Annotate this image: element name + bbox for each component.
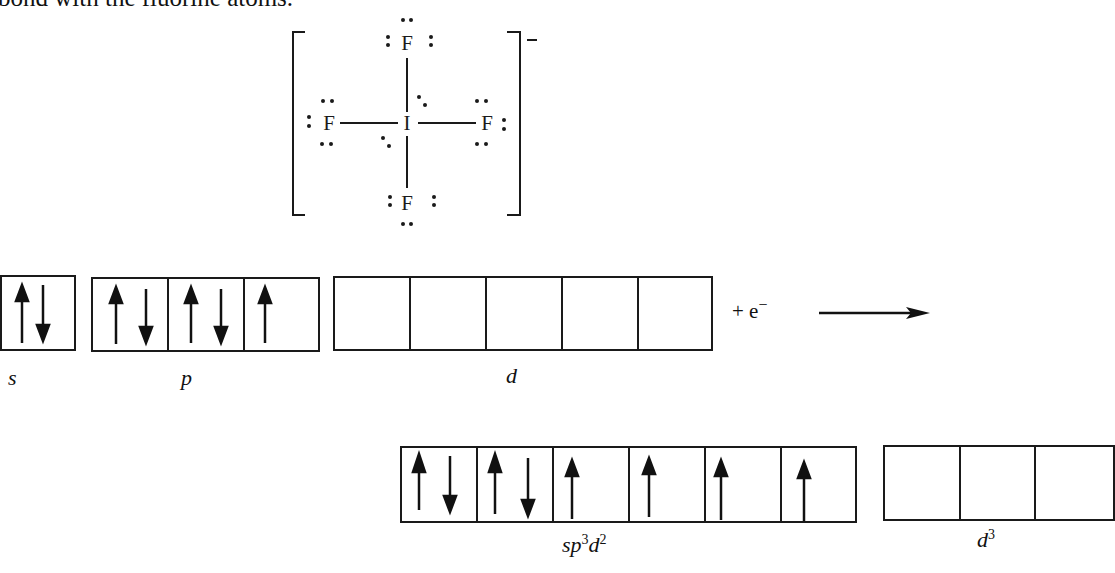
orbital-p	[91, 277, 320, 352]
orbital-cell	[706, 448, 782, 521]
orbital-cell	[402, 448, 478, 521]
lewis-structure-if4-minus: F I F F F	[280, 10, 550, 230]
label-p: p	[181, 365, 192, 391]
left-bracket	[293, 32, 305, 215]
orbital-cell	[782, 448, 855, 521]
orbital-cell	[961, 447, 1036, 519]
orbital-cell	[554, 448, 630, 521]
orbital-cell	[885, 447, 961, 519]
orbital-cell	[1036, 447, 1113, 519]
label-d: d	[506, 363, 517, 389]
right-bracket	[507, 32, 520, 215]
orbital-cell	[563, 278, 639, 349]
orbital-cell	[169, 279, 245, 350]
orbital-cell	[487, 278, 563, 349]
label-s: s	[8, 365, 17, 391]
atom-f-right: F	[481, 111, 493, 135]
added-electron: + e−	[732, 296, 767, 324]
orbital-cell	[478, 448, 554, 521]
orbital-sp3d2	[400, 446, 857, 523]
atom-i-central: I	[404, 111, 411, 135]
atom-f-bottom: F	[401, 191, 413, 215]
orbital-cell	[335, 278, 411, 349]
atom-f-left: F	[323, 111, 335, 135]
orbital-cell	[2, 277, 74, 349]
orbital-cell	[630, 448, 706, 521]
orbital-d	[333, 276, 713, 351]
label-d3: d3	[977, 527, 995, 553]
orbital-cell	[639, 278, 711, 349]
orbital-s	[0, 275, 76, 351]
atom-f-top: F	[401, 31, 413, 55]
reaction-arrow-icon	[818, 303, 933, 323]
orbital-cell	[93, 279, 169, 350]
orbital-cell	[411, 278, 487, 349]
body-text-clipped: bond with the fluorine atoms.	[0, 0, 293, 12]
label-sp3d2: sp3d2	[562, 532, 607, 558]
orbital-cell	[245, 279, 318, 350]
orbital-d3	[883, 445, 1115, 521]
